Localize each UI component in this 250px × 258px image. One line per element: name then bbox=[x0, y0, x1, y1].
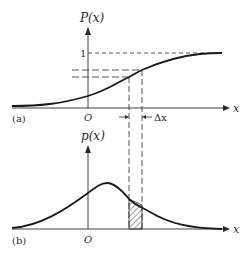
y-axis-arrow-b bbox=[85, 145, 91, 153]
panel-a: P(x) 1 x O (a) Δx bbox=[12, 11, 240, 124]
delta-x-label: Δx bbox=[154, 112, 167, 123]
x-axis-label-b: x bbox=[233, 223, 240, 236]
origin-label-b: O bbox=[84, 234, 92, 245]
x-axis-arrow-b bbox=[223, 226, 230, 232]
panel-label-b: (b) bbox=[12, 235, 26, 246]
cdf-curve bbox=[12, 53, 222, 106]
delta-right-arrowhead bbox=[142, 115, 146, 119]
y-axis-label-a: P(x) bbox=[79, 11, 105, 25]
level-one-label: 1 bbox=[80, 48, 86, 59]
y-axis-arrow-a bbox=[85, 27, 91, 35]
x-axis-label-a: x bbox=[233, 102, 240, 115]
panel-label-a: (a) bbox=[12, 113, 26, 124]
panel-b: p(x) x O (b) bbox=[12, 129, 240, 246]
figure: P(x) 1 x O (a) Δx p(x) x O (b) bbox=[0, 0, 250, 258]
y-axis-label-b: p(x) bbox=[81, 129, 105, 143]
x-axis-arrow-a bbox=[223, 105, 230, 111]
delta-left-arrowhead bbox=[125, 115, 129, 119]
origin-label-a: O bbox=[84, 112, 92, 123]
pdf-curve bbox=[12, 183, 222, 229]
